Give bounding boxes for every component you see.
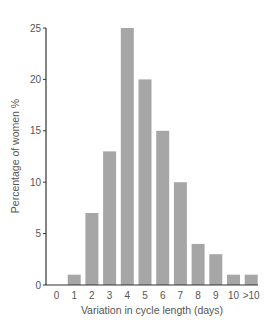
- bar-5: [139, 79, 152, 285]
- bar-1: [68, 275, 81, 285]
- y-axis-ticks: 0510152025: [30, 23, 46, 291]
- bar-10: [227, 275, 240, 285]
- y-tick-label: 10: [30, 177, 42, 188]
- bar-8: [192, 244, 205, 285]
- y-tick-label: 15: [30, 125, 42, 136]
- x-tick-label: 8: [195, 290, 201, 301]
- x-tick-label: 5: [142, 290, 148, 301]
- bar-7: [174, 182, 187, 285]
- x-tick-label: 1: [71, 290, 77, 301]
- y-tick-label: 0: [35, 280, 41, 291]
- y-axis-title: Percentage of women %: [9, 99, 21, 213]
- bar-9: [209, 254, 222, 285]
- bar-2: [85, 213, 98, 285]
- x-tick-label: 9: [213, 290, 219, 301]
- y-tick-label: 25: [30, 23, 42, 34]
- histogram-chart: 0510152025 012345678910>10 Variation in …: [0, 0, 270, 332]
- bar-gt10: [245, 275, 258, 285]
- x-tick-label: 4: [125, 290, 131, 301]
- bars: [68, 28, 258, 285]
- bar-4: [121, 28, 134, 285]
- x-axis-title: Variation in cycle length (days): [81, 304, 223, 316]
- x-tick-label: 10: [228, 290, 240, 301]
- x-tick-label: 0: [54, 290, 60, 301]
- bar-3: [103, 151, 116, 285]
- y-tick-label: 5: [35, 228, 41, 239]
- y-tick-label: 20: [30, 74, 42, 85]
- x-tick-label: 6: [160, 290, 166, 301]
- x-tick-label: >10: [243, 290, 260, 301]
- x-tick-label: 7: [178, 290, 184, 301]
- x-tick-label: 2: [89, 290, 95, 301]
- x-axis-ticks: 012345678910>10: [54, 290, 260, 301]
- bar-6: [156, 131, 169, 285]
- x-tick-label: 3: [107, 290, 113, 301]
